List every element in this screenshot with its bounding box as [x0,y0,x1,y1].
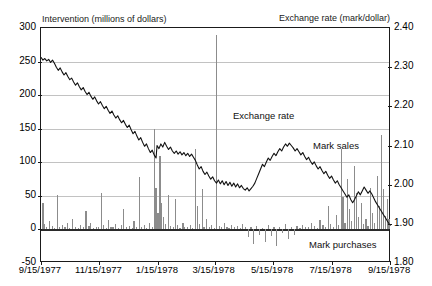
intervention-bar [184,227,185,230]
x-axis-tick-mark [99,261,100,265]
intervention-bar [190,225,191,230]
intervention-bar [141,227,142,229]
intervention-bar [112,227,113,229]
intervention-bar [159,156,160,230]
intervention-bar [69,228,70,229]
intervention-bar [308,227,309,229]
intervention-bar [103,225,104,230]
intervention-bar [305,227,306,230]
intervention-bar [106,228,107,229]
intervention-bar [296,226,297,229]
intervention-bar [170,226,171,229]
intervention-bar [221,227,222,229]
y-axis-tick-mark [38,196,42,197]
intervention-bar [139,177,140,229]
intervention-bar [288,229,289,238]
intervention-bar [349,209,350,229]
intervention-bar [157,213,158,230]
intervention-bar [179,228,180,229]
intervention-bar [245,227,246,230]
intervention-bar [317,228,318,229]
intervention-bar [383,189,384,229]
intervention-bar [175,199,176,229]
intervention-bar [52,226,53,229]
intervention-bar [328,206,329,230]
intervention-bar [302,225,303,230]
y-axis-tick-label: 50 [6,190,36,200]
intervention-bar [250,227,251,229]
intervention-bar [149,223,150,229]
y-axis-tick-mark [38,229,42,230]
intervention-bar [211,225,212,229]
intervention-bar [101,193,102,230]
intervention-bar [90,223,91,229]
intervention-bar [372,213,373,230]
y-axis-tick-mark [38,129,42,130]
intervention-bar [126,227,127,229]
intervention-bar [57,195,58,230]
y2-axis-tick-label: 2.20 [394,100,428,110]
intervention-bar [279,227,280,230]
y2-axis-tick-mark [388,106,392,107]
y2-axis-tick-label: 2.10 [394,140,428,150]
intervention-bar [206,219,207,229]
intervention-bar [387,199,388,229]
intervention-bar [161,203,162,230]
y-axis-tick-label: 0 [6,223,36,233]
annotation-mark-purchases: Mark purchases [309,240,377,250]
intervention-bar [291,227,292,229]
intervention-bar [163,217,164,229]
intervention-bar [365,219,366,229]
intervention-bar [271,229,272,236]
intervention-bar [219,226,220,229]
intervention-bar [187,227,188,229]
intervention-bar [240,228,241,229]
intervention-bar [336,215,337,230]
x-axis-tick-mark [215,261,216,265]
annotation-mark-sales: Mark sales [313,141,359,151]
intervention-bar [374,223,375,230]
intervention-bar [330,224,331,229]
intervention-bar [276,229,277,246]
intervention-bar [177,225,178,229]
x-axis-tick-label: 1/15/1978 [136,265,178,275]
intervention-bar [234,227,235,229]
x-axis-tick-mark [273,261,274,265]
intervention-bar [237,226,238,229]
intervention-bar [363,224,364,229]
x-axis-tick-label: 11/15/1977 [75,265,122,275]
intervention-bar [129,226,130,229]
x-axis-tick-label: 9/15/1978 [368,265,410,275]
intervention-bar [262,228,263,229]
x-axis-tick-mark [332,261,333,265]
intervention-bar [144,225,145,229]
intervention-bar [367,226,368,229]
intervention-bar [242,224,243,229]
intervention-bar [231,225,232,230]
intervention-bar [314,226,315,229]
intervention-bar [256,226,257,229]
intervention-bar [202,189,203,229]
intervention-bar [133,221,134,229]
intervention-bar [49,221,50,229]
intervention-bar [146,228,147,229]
x-axis-tick-label: 5/15/1978 [251,265,293,275]
intervention-bar [294,229,295,235]
intervention-bar [268,225,269,229]
y-axis-tick-label: 300 [6,22,36,32]
y2-axis-tick-label: 1.90 [394,218,428,228]
intervention-bar [98,227,99,229]
intervention-bar [62,225,63,230]
y-axis-tick-mark [38,162,42,163]
intervention-bar [377,176,378,230]
intervention-bar [78,228,79,229]
intervention-bar [325,227,326,229]
intervention-bar [333,227,334,230]
figure: Intervention (millions of dollars) Excha… [0,0,432,286]
intervention-bar [75,227,76,230]
intervention-bar [192,228,193,229]
intervention-bar [173,227,174,229]
intervention-bar [356,193,357,230]
intervention-bar [67,223,68,230]
intervention-bar [216,35,217,230]
